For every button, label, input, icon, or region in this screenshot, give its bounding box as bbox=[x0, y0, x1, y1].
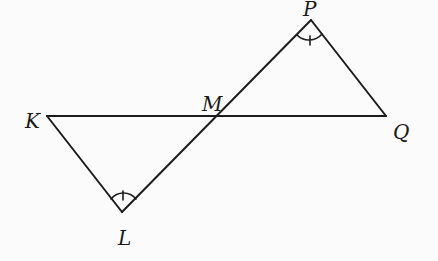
label-M: M bbox=[201, 92, 223, 116]
diagram-svg: P K M Q L bbox=[0, 0, 438, 261]
segment-KL bbox=[47, 116, 122, 212]
geometry-diagram: P K M Q L bbox=[0, 0, 438, 261]
label-L: L bbox=[117, 226, 131, 250]
label-K: K bbox=[24, 109, 41, 133]
label-P: P bbox=[302, 0, 317, 21]
label-Q: Q bbox=[393, 120, 409, 144]
